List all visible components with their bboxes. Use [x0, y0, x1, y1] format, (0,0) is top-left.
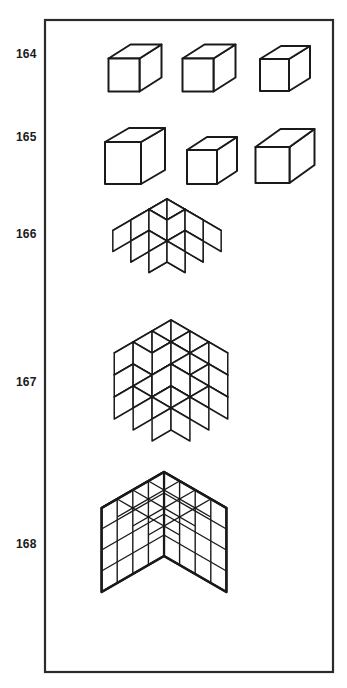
figure-166-group	[113, 199, 221, 273]
cube-face-front	[256, 147, 290, 183]
cube-figures-artwork	[0, 0, 347, 688]
figure-168-group	[102, 472, 227, 592]
cube-face-front	[187, 150, 217, 184]
cube-face-front	[260, 59, 289, 91]
figure-167-group	[114, 320, 228, 441]
figure-165-group	[105, 128, 315, 184]
cube	[105, 128, 165, 184]
cube	[109, 45, 162, 92]
figure-164-group	[109, 45, 311, 92]
cube-face-front	[105, 142, 141, 184]
cube-face-front	[183, 59, 214, 92]
cube	[187, 137, 237, 184]
figure-plate: 164 165 166 167 168	[0, 0, 347, 688]
cube-face-front	[109, 59, 140, 92]
cube-face-left	[113, 220, 131, 252]
cube	[260, 46, 310, 91]
cube-face-right	[203, 220, 221, 252]
cube	[256, 129, 315, 183]
cube	[183, 45, 236, 92]
